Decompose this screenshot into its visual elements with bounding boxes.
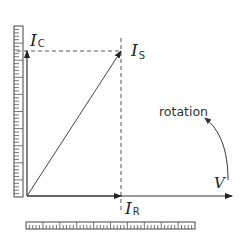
rotation-label: rotation [159, 104, 208, 119]
phasor-diagram: IC IS IR V rotation [0, 0, 241, 233]
v-label: V [214, 174, 227, 192]
ic-label: IC [29, 30, 45, 50]
horizontal-ruler[interactable] [26, 222, 195, 229]
is-vector [27, 51, 121, 196]
is-label: IS [130, 40, 145, 61]
ir-label: IR [124, 198, 140, 218]
vertical-ruler[interactable] [14, 26, 23, 197]
rotation-arrow-icon [205, 118, 228, 180]
